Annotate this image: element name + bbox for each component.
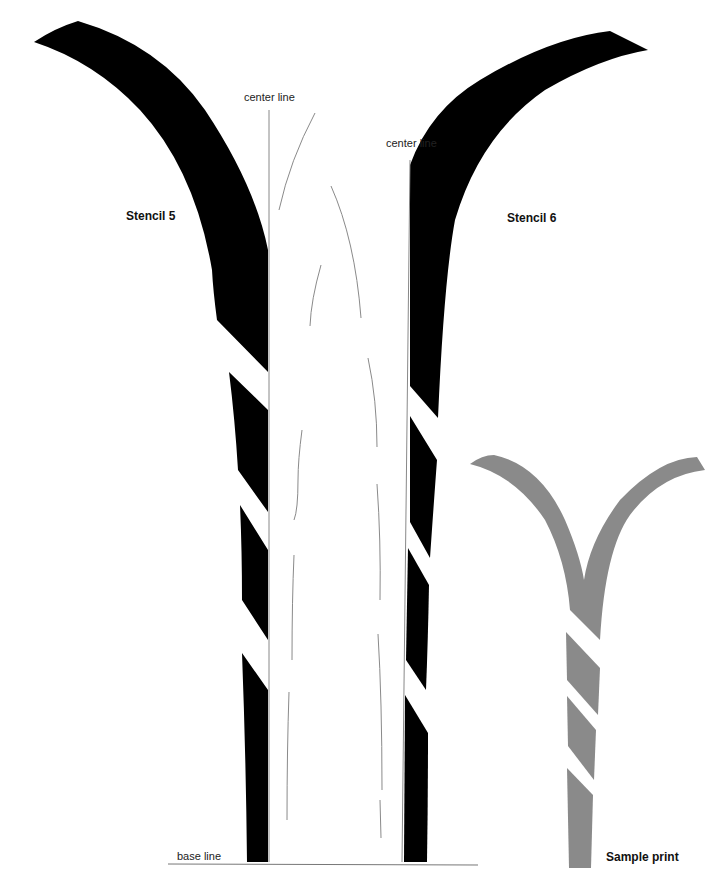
stencil-diagram (0, 0, 714, 884)
base-line (168, 864, 478, 865)
sample-print-shape (470, 455, 705, 868)
stencil-5-shape (34, 21, 268, 862)
base-line-label: base line (177, 850, 221, 862)
stencil-6-shape (404, 31, 648, 862)
center-line-label-right: center line (386, 137, 437, 149)
stencil-6-label: Stencil 6 (507, 211, 556, 225)
guide-curves (279, 113, 382, 838)
stencil-5-label: Stencil 5 (126, 209, 175, 223)
center-line-label-left: center line (244, 91, 295, 103)
sample-print-label: Sample print (606, 850, 679, 864)
